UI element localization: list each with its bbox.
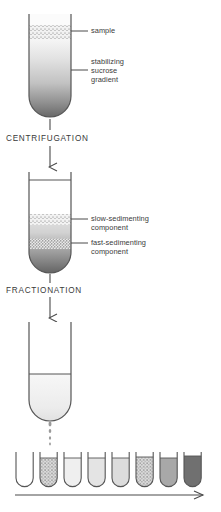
- label-stabilizing: stabilizing: [91, 57, 124, 66]
- slow-sedimenting-band: [29, 214, 71, 225]
- sucrose-gradient-figure: sample stabilizing sucrose gradient slow…: [0, 0, 221, 512]
- fraction-tube-3: [64, 452, 82, 490]
- fraction-tube-1: [16, 452, 33, 487]
- label-sample: sample: [91, 26, 115, 35]
- label-fast-component: component: [91, 247, 128, 256]
- label-slow-sedimenting: slow-sedimenting: [91, 214, 149, 223]
- tube-before-centrifugation: [29, 14, 71, 119]
- label-slow-component: component: [91, 223, 128, 232]
- collection-tubes: [16, 452, 202, 490]
- tube3-empty-top: [29, 322, 71, 374]
- label-gradient: gradient: [91, 75, 118, 84]
- step-label-fractionation: FRACTIONATION: [6, 286, 82, 296]
- tube-after-centrifugation: [29, 172, 71, 273]
- drip-stream: [49, 422, 52, 446]
- step-label-centrifugation: CENTRIFUGATION: [6, 134, 89, 144]
- fraction-tube-4: [88, 452, 106, 490]
- label-sucrose: sucrose: [91, 66, 117, 75]
- sample-band: [29, 25, 71, 39]
- sucrose-gradient-body: [29, 39, 71, 119]
- tube-during-fractionation: [29, 322, 71, 422]
- fast-sedimenting-band: [29, 238, 71, 249]
- fraction-tube-5: [112, 452, 130, 490]
- tube2-clear-top: [29, 172, 71, 216]
- fraction-tube-7: [160, 452, 178, 490]
- fraction-tube-2: [40, 452, 58, 490]
- fraction-tube-6: [136, 452, 154, 490]
- fraction-tube-8: [184, 452, 202, 490]
- label-fast-sedimenting: fast-sedimenting: [91, 238, 146, 247]
